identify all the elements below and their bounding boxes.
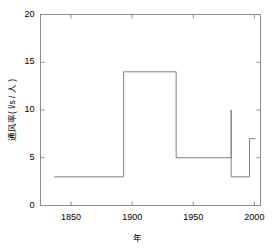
x-tick-label-1950: 1950 <box>168 212 218 222</box>
x-tick-label-1900: 1900 <box>107 212 157 222</box>
x-axis-title: 年 <box>0 231 274 243</box>
y-tick-label-20: 20 <box>1 9 35 19</box>
chart-figure: 05101520 1850190019502000 通风率( l/s / 人 )… <box>0 0 274 248</box>
x-tick-label-2000: 2000 <box>229 212 274 222</box>
x-tick-label-1850: 1850 <box>46 212 96 222</box>
y-axis-title: 通风率( l/s / 人 ) <box>5 55 17 165</box>
y-tick-label-0: 0 <box>1 200 35 210</box>
